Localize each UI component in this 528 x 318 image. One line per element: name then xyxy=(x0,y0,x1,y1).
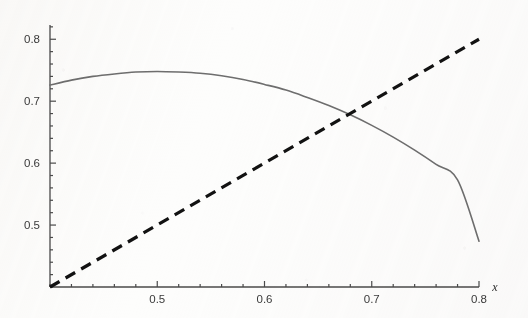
x-axis-ticks xyxy=(50,281,479,287)
y-axis-ticks xyxy=(50,27,56,287)
curve-series-line xyxy=(50,71,479,241)
x-axis-tick-label: 0.7 xyxy=(364,293,380,305)
y-axis-tick-labels: 0.50.60.70.8 xyxy=(24,33,40,231)
y-axis-tick-label: 0.5 xyxy=(24,219,40,231)
plot-area: 0.50.60.70.8 0.50.60.70.8 x xyxy=(0,0,528,318)
y-axis-tick-label: 0.8 xyxy=(24,33,40,45)
chart-figure: 0.50.60.70.8 0.50.60.70.8 x xyxy=(0,0,528,318)
x-axis-tick-label: 0.6 xyxy=(257,293,273,305)
x-axis-label: x xyxy=(491,280,498,294)
y-axis-tick-label: 0.7 xyxy=(24,95,40,107)
diagonal-dashed-line xyxy=(50,39,479,287)
x-axis-tick-label: 0.5 xyxy=(149,293,165,305)
axes-group xyxy=(50,25,479,287)
y-axis-tick-label: 0.6 xyxy=(24,157,40,169)
x-axis-tick-labels: 0.50.60.70.8 xyxy=(149,293,487,305)
x-axis-tick-label: 0.8 xyxy=(471,293,487,305)
